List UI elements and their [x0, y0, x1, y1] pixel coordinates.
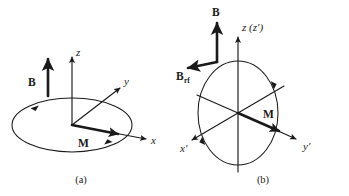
- panel-a-diagram: z y x M B (a): [0, 0, 175, 196]
- axis-y-prime-b-opposite: [197, 95, 238, 113]
- rf-field-label-b: B: [176, 70, 184, 82]
- figure-root: z y x M B (a): [0, 0, 349, 196]
- panel-a-caption: (a): [75, 174, 87, 186]
- axis-x-a-label: x: [150, 134, 156, 146]
- rf-field-subscript-b: rf: [184, 76, 190, 85]
- axis-y-prime-b-label: y′: [302, 140, 311, 152]
- panel-b-caption: (b): [257, 174, 270, 186]
- axis-z-b-label: z (z′): [241, 21, 263, 34]
- magnetization-label-b: M: [263, 108, 274, 120]
- field-label-a: B: [28, 76, 36, 88]
- axis-y-a-label: y: [123, 75, 129, 87]
- magnetization-vector-a: [72, 125, 118, 134]
- field-label-b: B: [212, 6, 220, 18]
- axis-z-a-label: z: [75, 46, 81, 58]
- precession-arrowhead-a-lower: [104, 139, 112, 144]
- panel-b-diagram: z (z′) x′ y′ M B B rf (b): [175, 0, 349, 196]
- rf-field-vector-b: [188, 62, 217, 68]
- precession-arrowhead-a-upper: [31, 106, 39, 111]
- axis-x-prime-b-label: x′: [179, 142, 188, 154]
- magnetization-label-a: M: [78, 137, 89, 149]
- axis-y-a: [72, 88, 120, 125]
